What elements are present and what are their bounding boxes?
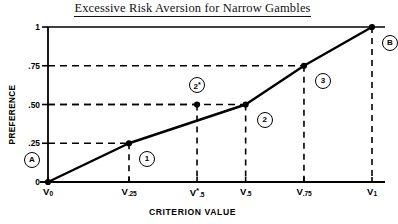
data-point-3 (301, 63, 307, 69)
data-point-2star (194, 101, 200, 107)
y-tick-label: .50 (10, 100, 40, 110)
point-label-B: B (382, 35, 398, 51)
data-point-B (369, 24, 375, 30)
x-tick-label-1: V.25 (109, 186, 149, 197)
data-point-2 (243, 101, 249, 107)
x-tick-label-0: V0 (28, 186, 68, 197)
point-label-A: A (24, 152, 40, 168)
x-tick-label-5: V1 (352, 186, 392, 197)
x-tick-label-4: V.75 (284, 186, 324, 197)
data-point-A (45, 179, 51, 185)
y-tick-label: .25 (10, 138, 40, 148)
x-tick-label-3: V.5 (226, 186, 266, 197)
point-label-3: 3 (315, 73, 331, 89)
x-tick-label-2: V*.5 (177, 186, 217, 198)
point-label-2: 2 (257, 112, 273, 128)
point-label-2star: 2* (189, 77, 205, 93)
data-point-1 (126, 140, 132, 146)
y-tick-label: .75 (10, 61, 40, 71)
y-tick-label: 1 (10, 22, 40, 32)
